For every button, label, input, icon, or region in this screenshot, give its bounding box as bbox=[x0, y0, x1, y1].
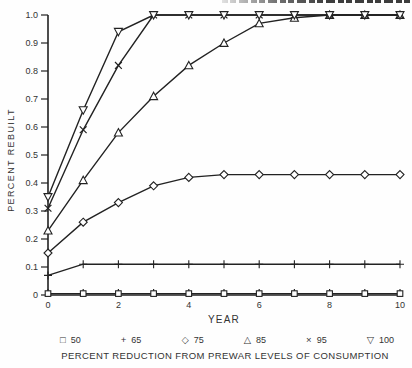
diamond-marker-icon bbox=[396, 171, 404, 179]
series-85 bbox=[44, 11, 404, 234]
plus-marker-icon bbox=[44, 271, 52, 279]
diamond-marker-icon bbox=[114, 199, 122, 207]
y-tick-label: 0.3 bbox=[25, 206, 38, 216]
clipped-top-text bbox=[222, 0, 412, 3]
y-tick-label: 0.4 bbox=[25, 178, 38, 188]
diamond-marker-icon bbox=[150, 182, 158, 190]
legend-label: 95 bbox=[317, 335, 327, 345]
legend-label: 50 bbox=[71, 335, 81, 345]
plus-marker-icon bbox=[290, 260, 298, 268]
series-line-85 bbox=[48, 15, 400, 231]
triangle-down-marker-icon bbox=[79, 107, 87, 114]
legend-item-75: ◇75 bbox=[181, 335, 203, 345]
y-tick-label: 0 bbox=[33, 290, 38, 300]
triangle-down-marker-icon bbox=[44, 194, 52, 201]
diamond-marker-icon: ◇ bbox=[181, 335, 188, 345]
x-marker-icon bbox=[80, 126, 87, 133]
x-tick-label: 6 bbox=[257, 300, 262, 310]
diamond-marker-icon bbox=[255, 171, 263, 179]
legend-item-85: △85 bbox=[244, 335, 266, 345]
legend-item-65: +65 bbox=[121, 335, 142, 345]
series-75 bbox=[44, 171, 404, 257]
triangle-up-marker-icon bbox=[185, 61, 193, 68]
diamond-marker-icon bbox=[220, 171, 228, 179]
y-tick-label: 1.0 bbox=[25, 10, 38, 20]
legend-label: 85 bbox=[256, 335, 266, 345]
plus-marker-icon bbox=[150, 260, 158, 268]
square-marker-icon: □ bbox=[60, 335, 66, 345]
x-tick-label: 10 bbox=[395, 300, 405, 310]
diamond-marker-icon bbox=[290, 171, 298, 179]
x-marker-icon bbox=[115, 62, 122, 69]
square-marker-icon bbox=[292, 291, 298, 297]
square-marker-icon bbox=[116, 291, 122, 297]
x-tick-label: 0 bbox=[45, 300, 50, 310]
legend-item-100: ▽100 bbox=[367, 335, 394, 345]
x-tick-label: 8 bbox=[327, 300, 332, 310]
rebuild-vs-year-figure: 00.10.20.30.40.50.60.70.80.91.00246810 P… bbox=[0, 0, 412, 368]
triangle-up-marker-icon: △ bbox=[244, 335, 251, 345]
square-marker-icon bbox=[256, 291, 262, 297]
plus-marker-icon bbox=[220, 260, 228, 268]
triangle-down-marker-icon bbox=[114, 28, 122, 35]
legend-item-95: ×95 bbox=[306, 335, 327, 345]
diamond-marker-icon bbox=[361, 171, 369, 179]
chart-canvas: 00.10.20.30.40.50.60.70.80.91.00246810 bbox=[0, 0, 412, 368]
square-marker-icon bbox=[45, 291, 51, 297]
legend: □50+65◇75△85×95▽100 bbox=[60, 335, 394, 345]
legend-label: 100 bbox=[379, 335, 394, 345]
triangle-down-marker-icon: ▽ bbox=[367, 335, 374, 345]
diamond-marker-icon bbox=[326, 171, 334, 179]
x-marker-icon: × bbox=[306, 335, 312, 345]
plus-marker-icon bbox=[326, 260, 334, 268]
y-tick-label: 0.1 bbox=[25, 262, 38, 272]
y-tick-label: 0.5 bbox=[25, 150, 38, 160]
square-marker-icon bbox=[327, 291, 333, 297]
y-tick-label: 0.2 bbox=[25, 234, 38, 244]
series-65 bbox=[44, 260, 404, 279]
plus-marker-icon bbox=[255, 260, 263, 268]
plus-marker-icon bbox=[396, 260, 404, 268]
plus-marker-icon bbox=[79, 260, 87, 268]
square-marker-icon bbox=[186, 291, 192, 297]
square-marker-icon bbox=[397, 291, 403, 297]
plus-marker-icon: + bbox=[121, 335, 127, 345]
diamond-marker-icon bbox=[185, 173, 193, 181]
plus-marker-icon bbox=[114, 260, 122, 268]
y-tick-label: 0.7 bbox=[25, 94, 38, 104]
legend-item-50: □50 bbox=[60, 335, 81, 345]
square-marker-icon bbox=[362, 291, 368, 297]
plus-marker-icon bbox=[185, 260, 193, 268]
legend-label: 75 bbox=[194, 335, 204, 345]
y-tick-label: 0.6 bbox=[25, 122, 38, 132]
square-marker-icon bbox=[151, 291, 157, 297]
x-tick-label: 2 bbox=[116, 300, 121, 310]
y-tick-label: 0.9 bbox=[25, 38, 38, 48]
legend-label: 65 bbox=[131, 335, 141, 345]
square-marker-icon bbox=[80, 291, 86, 297]
x-tick-label: 4 bbox=[186, 300, 191, 310]
y-tick-label: 0.8 bbox=[25, 66, 38, 76]
plus-marker-icon bbox=[361, 260, 369, 268]
figure-caption: PERCENT REDUCTION FROM PREWAR LEVELS OF … bbox=[38, 350, 412, 361]
triangle-up-marker-icon bbox=[220, 39, 228, 46]
y-axis-title: PERCENT REBUILT bbox=[6, 108, 16, 212]
x-axis-title: YEAR bbox=[48, 314, 400, 325]
square-marker-icon bbox=[221, 291, 227, 297]
series-line-75 bbox=[48, 175, 400, 253]
